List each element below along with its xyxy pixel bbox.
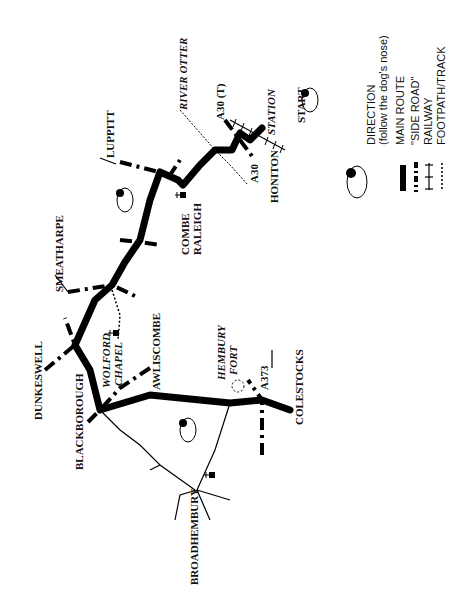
label-honiton: HONITON (268, 150, 280, 203)
label-station: STATION (265, 88, 277, 135)
legend-railway: RAILWAY (422, 97, 434, 145)
walking-route-map: START STATION HONITON A30 A30 (T) RIVER … (0, 0, 471, 611)
side-road-luppitt (120, 160, 180, 175)
label-blackborough: BLACKBOROUGH (73, 373, 85, 470)
label-start: START (295, 87, 307, 123)
legend-direction: DIRECTION (365, 84, 377, 145)
church-icon (204, 472, 215, 478)
label-broadhembury: BROADHEMBURY (188, 488, 200, 585)
label-hembury-fort-2: FORT (227, 344, 239, 376)
label-wolford-chapel-1: WOLFORD (100, 333, 112, 388)
legend-main-route: MAIN ROUTE (394, 76, 406, 145)
legend-direction-note: (follow the dog's nose) (377, 35, 389, 145)
label-dunkeswell: DUNKESWELL (32, 341, 44, 420)
label-a30t: A30 (T) (214, 83, 227, 120)
label-luppitt: LUPPITT (104, 110, 116, 158)
dog-direction-icon (116, 188, 133, 212)
legend: DIRECTION (follow the dog's nose) MAIN R… (365, 35, 447, 192)
dog-direction-icon (346, 166, 367, 198)
label-a30: A30 (248, 164, 260, 183)
hembury-fort-ring (232, 380, 244, 392)
label-a373: A373 (258, 365, 270, 390)
label-river-otter: RIVER OTTER (177, 38, 189, 111)
label-awliscombe: AWLISCOMBE (150, 313, 162, 390)
label-combe-raleigh-1: COMBE (179, 213, 191, 255)
legend-railway-swatch (425, 163, 433, 190)
label-combe-raleigh-2: RALEIGH (191, 203, 203, 255)
side-road-dunkeswell (45, 318, 75, 370)
legend-side-road: "SIDE ROAD" (409, 77, 421, 145)
lane-network (100, 403, 230, 520)
church-icon (175, 192, 186, 198)
side-road-a373 (248, 380, 262, 455)
label-wolford-chapel-2: CHAPEL (112, 342, 124, 386)
legend-footpath: FOOTPATH/TRACK (435, 46, 447, 145)
label-smeatharpe: SMEATHARPE (53, 215, 65, 292)
label-hembury-fort-1: HEMBURY (215, 324, 227, 381)
legend-main-route-swatch (400, 165, 406, 191)
label-colestocks: COLESTOCKS (293, 349, 305, 425)
dog-direction-icon (179, 418, 196, 442)
